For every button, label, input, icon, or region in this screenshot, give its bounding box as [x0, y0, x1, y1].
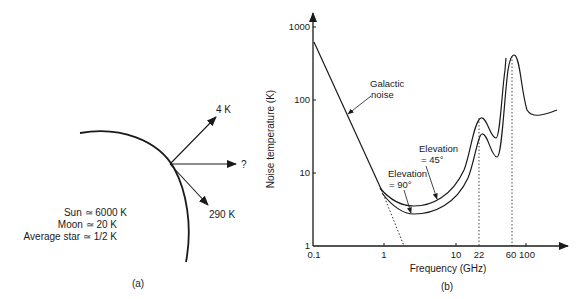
elev45-label-1: Elevation	[419, 143, 458, 154]
caption-b: (b)	[441, 281, 453, 292]
ytick-1000: 1000	[289, 21, 310, 32]
elev90-label-2: = 90°	[389, 179, 412, 190]
label-unknown: ?	[241, 159, 247, 170]
caption-a: (a)	[132, 278, 144, 289]
xtick-100: 100	[519, 249, 535, 260]
galactic-label-2: noise	[371, 89, 394, 100]
earth-surface-arc	[80, 131, 189, 262]
label-290k: 290 K	[209, 209, 235, 220]
ytick-10: 10	[299, 167, 310, 178]
curve-elevation-90	[382, 55, 557, 214]
xtick-22: 22	[474, 249, 485, 260]
galactic-label-1: Galactic	[370, 78, 405, 89]
xtick-1: 1	[381, 249, 386, 260]
galactic-pointer-icon	[348, 96, 371, 114]
label-4k: 4 K	[216, 104, 231, 115]
arrow-up-icon	[170, 117, 216, 164]
star-temp: Average star ≃ 1/2 K	[24, 231, 118, 242]
ytick-100: 100	[294, 94, 310, 105]
galactic-noise-line	[314, 42, 382, 191]
arrow-down-icon	[170, 164, 208, 205]
figure: 4 K ? 290 K Sun ≃ 6000 K Moon ≃ 20 K Ave…	[0, 0, 581, 299]
y-axis-label: Noise temperature (K)	[265, 90, 276, 188]
xtick-10: 10	[451, 249, 462, 260]
x-axis-label: Frequency (GHz)	[410, 263, 487, 274]
elev45-label-2: = 45°	[421, 154, 444, 165]
panel-a: 4 K ? 290 K Sun ≃ 6000 K Moon ≃ 20 K Ave…	[24, 104, 247, 289]
elev90-pointer-icon	[404, 190, 411, 213]
elev45-pointer-icon	[426, 166, 437, 199]
xtick-60: 60	[506, 249, 517, 260]
sun-temp: Sun ≃ 6000 K	[64, 207, 127, 218]
elev90-label-1: Elevation	[388, 168, 427, 179]
xtick-0.1: 0.1	[307, 249, 320, 260]
moon-temp: Moon ≃ 20 K	[58, 219, 117, 230]
panel-b: 1 10 100 1000 0.1 1 10 22 60 100 Frequen…	[265, 13, 568, 292]
